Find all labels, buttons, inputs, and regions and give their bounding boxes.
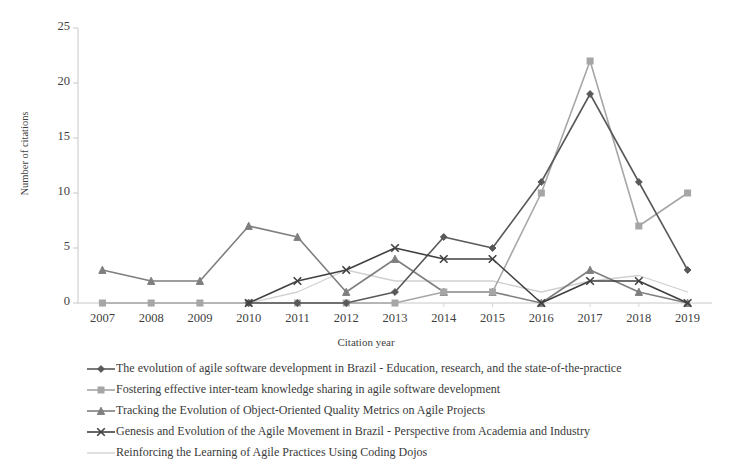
square-marker — [86, 383, 116, 397]
legend-item-3[interactable]: Tracking the Evolution of Object-Oriente… — [86, 400, 726, 421]
triangle-marker — [586, 266, 593, 273]
square-marker — [148, 300, 154, 306]
series-line — [249, 270, 688, 303]
square-marker — [98, 387, 104, 393]
series-1 — [245, 91, 691, 307]
legend-label: Tracking the Evolution of Object-Oriente… — [116, 403, 485, 418]
diamond-marker — [635, 179, 642, 186]
diamond-marker — [98, 365, 105, 372]
legend-label: Reinforcing the Learning of Agile Practi… — [116, 445, 427, 460]
square-marker — [392, 300, 398, 306]
square-marker — [441, 289, 447, 295]
diamond-marker — [684, 267, 691, 274]
diamond-marker — [587, 91, 594, 98]
triangle-marker — [86, 404, 116, 418]
square-marker — [197, 300, 203, 306]
square-marker — [685, 190, 691, 196]
legend-label: The evolution of agile software developm… — [116, 361, 621, 376]
series-line — [102, 61, 687, 303]
chart-legend: The evolution of agile software developm… — [86, 358, 726, 463]
triangle-marker — [391, 255, 398, 262]
legend-item-2[interactable]: Fostering effective inter-team knowledge… — [86, 379, 726, 400]
square-marker — [490, 289, 496, 295]
citation-line-chart: Number of citations Citation year 051015… — [0, 0, 732, 476]
diamond-marker — [86, 362, 116, 376]
square-marker — [538, 190, 544, 196]
x-marker — [86, 425, 116, 439]
line-marker — [86, 446, 116, 460]
series-2 — [99, 58, 690, 306]
legend-item-4[interactable]: Genesis and Evolution of the Agile Movem… — [86, 421, 726, 442]
legend-item-1[interactable]: The evolution of agile software developm… — [86, 358, 726, 379]
series-line — [249, 94, 688, 303]
square-marker — [636, 223, 642, 229]
legend-label: Genesis and Evolution of the Agile Movem… — [116, 424, 590, 439]
series-5 — [249, 270, 688, 303]
legend-label: Fostering effective inter-team knowledge… — [116, 382, 500, 397]
square-marker — [99, 300, 105, 306]
legend-item-5[interactable]: Reinforcing the Learning of Agile Practi… — [86, 442, 726, 463]
square-marker — [587, 58, 593, 64]
